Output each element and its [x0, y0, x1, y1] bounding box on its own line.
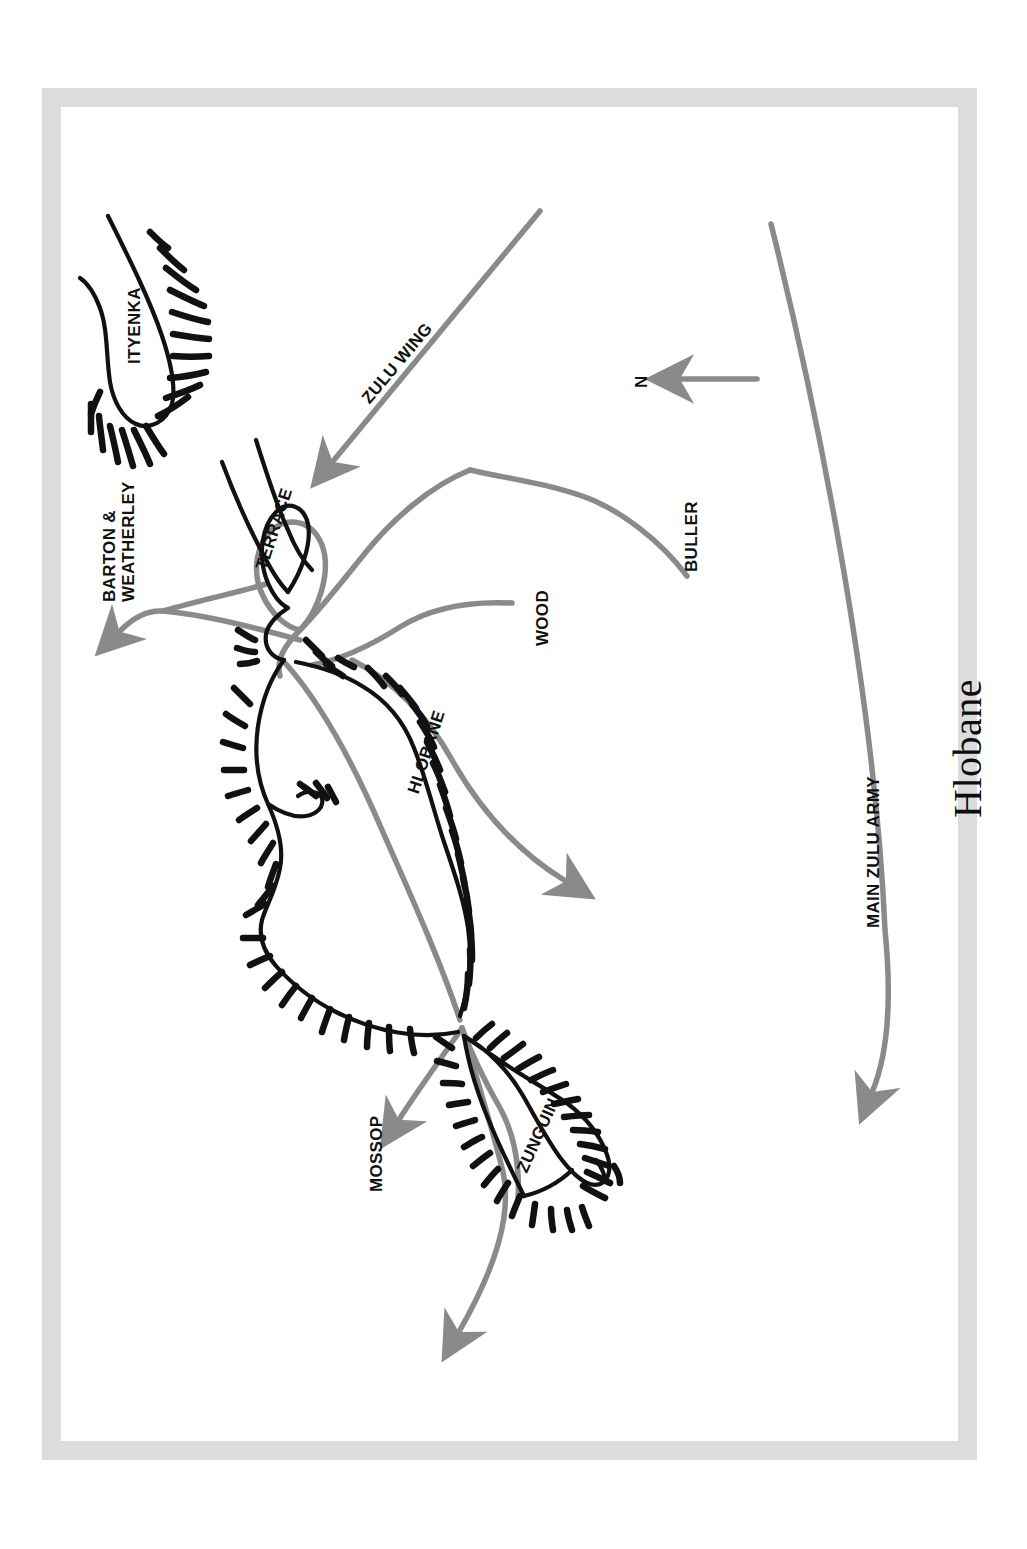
label-ityenka: ITYENKA — [125, 287, 145, 364]
map-title: Hlobane — [944, 679, 991, 818]
label-barton-weatherley-line1: BARTON & — [100, 481, 119, 602]
label-mossop: MOSSOP — [367, 1116, 387, 1192]
picture-frame — [42, 88, 977, 1460]
label-main-zulu-army: MAIN ZULU ARMY — [864, 776, 884, 928]
map-page: ITYENKA BARTON & WEATHERLEY TERRACE ZULU… — [0, 0, 1027, 1549]
label-barton-weatherley-line2: WEATHERLEY — [119, 481, 138, 602]
label-barton-weatherley: BARTON & WEATHERLEY — [100, 481, 138, 602]
label-wood: WOOD — [533, 590, 553, 646]
label-buller: BULLER — [682, 501, 702, 572]
label-compass-north: N — [632, 375, 652, 388]
